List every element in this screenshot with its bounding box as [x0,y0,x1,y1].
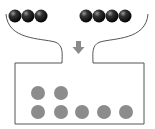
grey-ball [54,105,68,119]
grey-ball [75,105,89,119]
arrow-down-icon [73,41,85,54]
black-ball [22,10,35,23]
grey-ball [31,105,45,119]
grey-ball [54,86,68,100]
black-balls-left [9,10,48,23]
black-ball [119,10,132,23]
black-balls-right [80,10,132,23]
funnel-diagram [0,0,155,129]
black-ball [93,10,106,23]
black-ball [35,10,48,23]
black-ball [106,10,119,23]
black-ball [80,10,93,23]
grey-balls [31,86,133,119]
grey-ball [119,105,133,119]
grey-ball [97,105,111,119]
grey-ball [31,86,45,100]
black-ball [9,10,22,23]
